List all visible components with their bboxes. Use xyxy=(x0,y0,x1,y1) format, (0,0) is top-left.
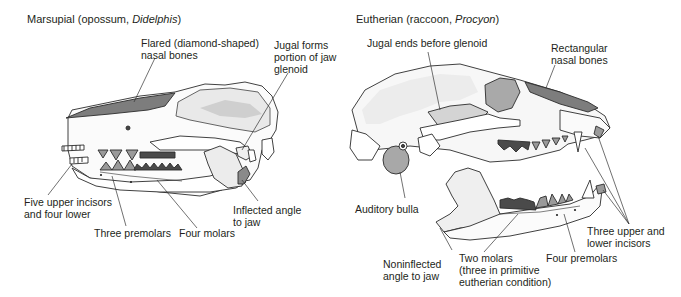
label-flared-nasal-bones: Flared (diamond-shaped) nasal bones xyxy=(141,37,259,61)
label-rectangular-nasal-bones: Rectangular nasal bones xyxy=(551,42,608,66)
label-auditory-bulla: Auditory bulla xyxy=(355,203,419,215)
label-jugal-ends-before-glenoid: Jugal ends before glenoid xyxy=(367,37,487,49)
label-marsupial-premolars: Three premolars xyxy=(94,227,171,239)
eutherian-title: Eutherian (raccoon, Procyon) xyxy=(356,13,499,26)
label-eutherian-molars: Two molars (three in primitive eutherian… xyxy=(459,252,551,288)
marsupial-skull-drawing xyxy=(62,82,278,196)
label-noninflected-angle: Noninflected angle to jaw xyxy=(383,258,441,282)
label-marsupial-molars: Four molars xyxy=(179,227,235,239)
label-jugal-forms-glenoid: Jugal forms portion of jaw glenoid xyxy=(274,39,336,75)
marsupial-title: Marsupial (opossum, Didelphis) xyxy=(27,13,181,26)
label-inflected-angle: Inflected angle to jaw xyxy=(233,204,301,228)
label-marsupial-incisors: Five upper incisors and four lower xyxy=(24,196,112,220)
label-eutherian-premolars: Four premolars xyxy=(546,252,617,264)
label-eutherian-incisors: Three upper and lower incisors xyxy=(587,225,665,249)
skull-comparison-figure: Marsupial (opossum, Didelphis) Flared (d… xyxy=(0,0,681,297)
